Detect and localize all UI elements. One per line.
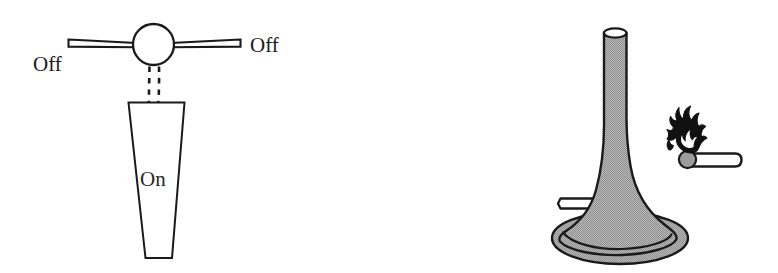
valve-arm-left-icon xyxy=(69,40,137,48)
match-head-icon xyxy=(679,151,696,168)
match-flame-flicker-icon xyxy=(667,140,673,151)
illustration-canvas: Off Off On xyxy=(0,0,778,273)
label-off-left: Off xyxy=(33,52,62,76)
valve-arm-right-icon xyxy=(171,40,241,48)
gas-tap-diagram: Off Off On xyxy=(33,24,279,258)
label-off-right: Off xyxy=(250,33,279,57)
figure-root: Off Off On xyxy=(0,0,778,273)
valve-knob-icon xyxy=(133,24,174,65)
label-on: On xyxy=(140,167,166,191)
burner-mouth-icon xyxy=(604,28,627,37)
bunsen-burner-diagram xyxy=(552,28,742,264)
burner-barrel-icon xyxy=(559,33,676,255)
match-stick-icon xyxy=(690,154,742,167)
